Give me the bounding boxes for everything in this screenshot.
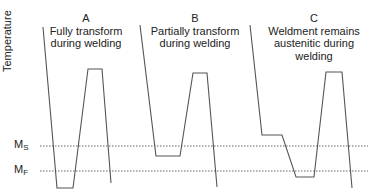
case-c-line3: welding bbox=[258, 50, 370, 63]
case-b-letter: B bbox=[142, 12, 248, 25]
case-c-caption: C Weldment remains austenitic during wel… bbox=[258, 12, 370, 62]
mf-label: MF bbox=[14, 163, 28, 177]
case-b-line1: Partially transform bbox=[142, 25, 248, 38]
case-a-caption: A Fully transform during welding bbox=[40, 12, 132, 50]
case-a-line1: Fully transform bbox=[40, 25, 132, 38]
case-c-line1: Weldment remains bbox=[258, 25, 370, 38]
curve-a bbox=[43, 27, 111, 188]
case-b-caption: B Partially transform during welding bbox=[142, 12, 248, 50]
case-a-letter: A bbox=[40, 12, 132, 25]
case-c-letter: C bbox=[258, 12, 370, 25]
case-b-line2: during welding bbox=[142, 37, 248, 50]
y-axis-label: Temperature bbox=[1, 10, 13, 72]
case-a-line2: during welding bbox=[40, 37, 132, 50]
ms-label: MS bbox=[14, 138, 29, 152]
case-c-line2: austenitic during bbox=[258, 37, 370, 50]
